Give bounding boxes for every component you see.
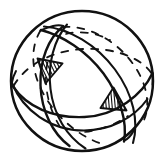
sphere-diagram: [0, 0, 164, 162]
figure-canvas: Line drawing of a sphere crossed by thre…: [0, 0, 164, 162]
background-plate: [0, 0, 164, 162]
